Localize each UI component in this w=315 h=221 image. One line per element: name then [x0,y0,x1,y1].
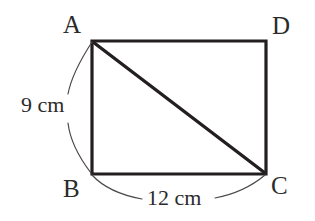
measure-arc-ab-lower [68,123,91,173]
geometry-figure: A D B C 9 cm 12 cm [0,0,315,221]
measurement-label-side-bc: 12 cm [147,187,201,209]
measure-arc-bc-right [215,175,265,198]
measure-arc-ab-upper [68,42,92,94]
vertex-label-a: A [63,12,81,37]
diagonal-line-ac [93,42,265,173]
measurement-label-side-ab: 9 cm [21,94,64,116]
measure-arc-bc-left [92,175,142,199]
vertex-label-b: B [63,176,80,201]
vertex-label-c: C [271,173,288,198]
vertex-label-d: D [272,13,290,38]
